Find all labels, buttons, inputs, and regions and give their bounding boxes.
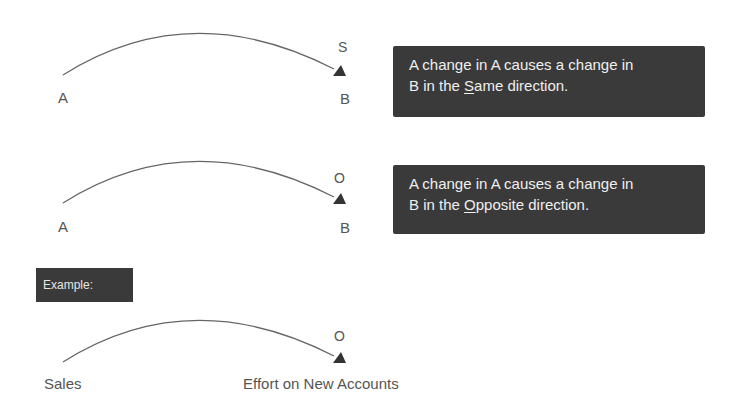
description-line-2: B in the Opposite direction. <box>409 194 693 215</box>
arc-a-to-b-same <box>63 33 334 75</box>
description-line-1: A change in A causes a change in <box>409 173 693 194</box>
polarity-label: O <box>334 329 345 343</box>
arrowhead-icon <box>333 65 346 76</box>
polarity-label: O <box>334 171 345 185</box>
node-a: A <box>58 90 68 105</box>
arrowhead-icon <box>333 352 346 363</box>
arrowhead-icon <box>333 193 346 204</box>
node-sales: Sales <box>44 376 82 391</box>
polarity-label: S <box>338 40 347 54</box>
node-a: A <box>58 219 68 234</box>
opposite-direction-description: A change in A causes a change in B in th… <box>393 165 705 234</box>
example-label: Example: <box>36 268 133 302</box>
description-line-1: A change in A causes a change in <box>409 54 693 75</box>
same-direction-description: A change in A causes a change in B in th… <box>393 46 705 117</box>
arc-a-to-b-opposite <box>63 161 334 203</box>
description-line-2: B in the Same direction. <box>409 75 693 96</box>
node-effort-on-new-accounts: Effort on New Accounts <box>243 376 399 391</box>
arc-sales-to-effort <box>63 320 334 362</box>
node-b: B <box>340 220 350 235</box>
node-b: B <box>340 91 350 106</box>
